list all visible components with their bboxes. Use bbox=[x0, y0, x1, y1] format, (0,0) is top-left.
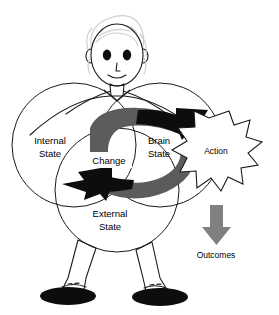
label-brain-state-line1: Brain bbox=[148, 135, 170, 146]
label-external-state-line1: External bbox=[93, 208, 128, 219]
right-shoe bbox=[132, 288, 188, 306]
brain-body-environment-diagram: Internal State Brain State External Stat… bbox=[0, 0, 279, 315]
label-change: Change bbox=[92, 155, 125, 166]
person-head-group bbox=[86, 16, 148, 86]
outcomes-arrow-icon bbox=[202, 205, 231, 245]
label-brain-state-line2: State bbox=[148, 148, 170, 159]
return-arc-arrowhead bbox=[62, 166, 112, 201]
label-action: Action bbox=[204, 146, 228, 156]
collar bbox=[110, 85, 124, 96]
right-eye bbox=[123, 50, 131, 61]
left-shoe bbox=[40, 287, 96, 305]
left-eye bbox=[103, 50, 111, 61]
left-leg bbox=[63, 240, 96, 290]
diagram-canvas: Internal State Brain State External Stat… bbox=[0, 0, 279, 315]
person-legs-group bbox=[40, 240, 188, 306]
label-external-state-line2: State bbox=[99, 221, 121, 232]
label-internal-state-line1: Internal bbox=[34, 135, 66, 146]
label-outcomes: Outcomes bbox=[197, 250, 236, 260]
shoulder-left bbox=[66, 91, 111, 114]
label-internal-state-line2: State bbox=[39, 148, 61, 159]
change-label-group: Change bbox=[86, 152, 132, 168]
right-leg bbox=[136, 242, 166, 291]
